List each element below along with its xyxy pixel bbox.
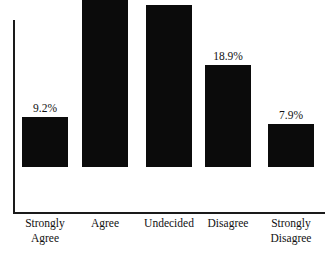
bar-value-label: 9.2% <box>10 102 80 115</box>
bar-disagree[interactable] <box>205 65 251 167</box>
plot-area: 9.2% 34.1% 29.8% 18.9% 7.9% <box>0 0 332 213</box>
bar-value-label: 29.8% <box>134 0 204 3</box>
bar-value-label: 7.9% <box>256 109 326 122</box>
bar-chart: 9.2% 34.1% 29.8% 18.9% 7.9% Strongly Agr… <box>0 0 332 259</box>
bar-strongly-agree[interactable] <box>22 117 68 167</box>
bar-group-disagree: 18.9% <box>205 65 251 167</box>
bar-group-undecided: 29.8% <box>146 5 192 167</box>
bar-undecided[interactable] <box>146 5 192 167</box>
bar-strongly-disagree[interactable] <box>268 124 314 167</box>
x-label-strongly-disagree: Strongly Disagree <box>253 216 329 245</box>
x-label-line2: Agree <box>7 231 83 246</box>
bar-value-label: 18.9% <box>193 50 263 63</box>
x-axis-category-labels: Strongly Agree Agree Undecided Disagree … <box>0 216 332 259</box>
bar-group-strongly-disagree: 7.9% <box>268 124 314 167</box>
x-label-line1: Strongly <box>253 216 329 231</box>
x-label-line2: Disagree <box>253 231 329 246</box>
bar-group-strongly-agree: 9.2% <box>22 117 68 167</box>
bar-agree[interactable] <box>82 0 128 167</box>
bar-group-agree: 34.1% <box>82 0 128 167</box>
